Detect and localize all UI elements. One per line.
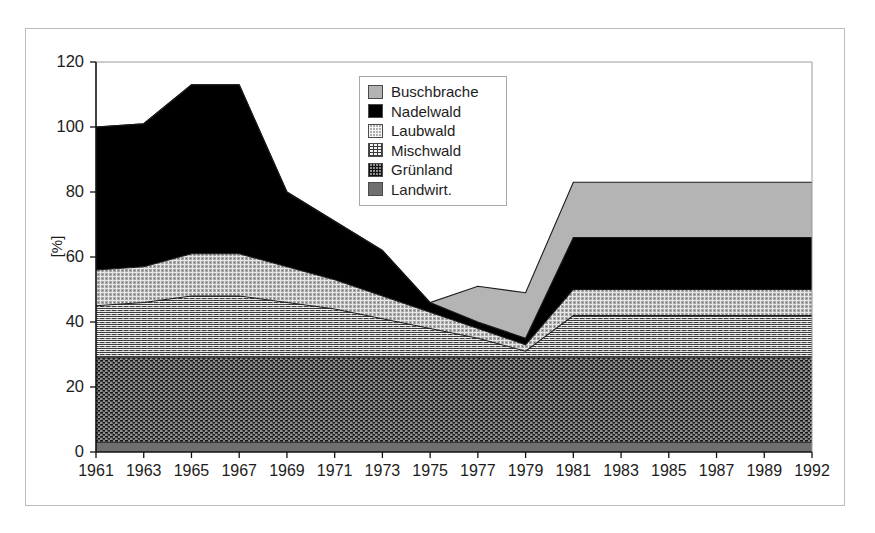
area-band-landwirt <box>96 442 812 452</box>
legend-swatch-icon <box>368 85 383 99</box>
legend-item: Laubwald <box>368 121 498 141</box>
legend-swatch-icon <box>368 163 383 177</box>
legend-item: Buschbrache <box>368 82 498 102</box>
legend-swatch-icon <box>368 124 383 138</box>
legend-item-label: Landwirt. <box>391 182 452 197</box>
legend-item: Landwirt. <box>368 180 498 200</box>
area-band-grnland <box>96 358 812 443</box>
legend-item: Mischwald <box>368 141 498 161</box>
legend-swatch-icon <box>368 143 383 157</box>
chart-legend: BuschbracheNadelwaldLaubwaldMischwaldGrü… <box>359 76 507 206</box>
legend-item: Nadelwald <box>368 102 498 122</box>
legend-item: Grünland <box>368 160 498 180</box>
legend-item-label: Grünland <box>391 162 453 177</box>
y-tick-label: 80 <box>40 182 84 201</box>
legend-item-label: Buschbrache <box>391 84 479 99</box>
y-tick-label: 0 <box>40 442 84 461</box>
legend-item-label: Mischwald <box>391 143 461 158</box>
y-tick-label: 20 <box>40 377 84 396</box>
legend-item-label: Nadelwald <box>391 104 461 119</box>
legend-item-label: Laubwald <box>391 123 455 138</box>
y-tick-label: 60 <box>40 247 84 266</box>
y-tick-label: 40 <box>40 312 84 331</box>
y-tick-label: 100 <box>40 117 84 136</box>
y-tick-label: 120 <box>40 52 84 71</box>
chart-figure: [%] 020406080100120 19611963196519671969… <box>0 0 875 533</box>
legend-swatch-icon <box>368 182 383 196</box>
legend-swatch-icon <box>368 104 383 118</box>
x-tick-label: 1992 <box>782 462 842 480</box>
